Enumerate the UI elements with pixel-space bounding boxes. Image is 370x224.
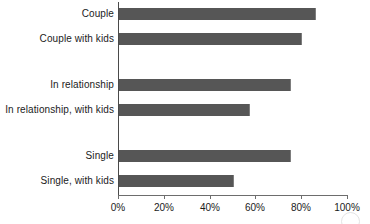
x-tick-label: 0%: [111, 201, 125, 214]
bar: [119, 175, 234, 187]
bar: [119, 79, 291, 91]
x-tick-label: 80%: [291, 201, 311, 214]
x-tick-label: 40%: [200, 201, 220, 214]
bar-row: Single, with kids: [0, 175, 370, 187]
bar-chart: CoupleCouple with kidsIn relationshipIn …: [0, 0, 370, 224]
category-label: Single: [86, 148, 114, 163]
bar-row: Couple: [0, 8, 370, 20]
category-label: In relationship, with kids: [5, 102, 114, 117]
scan-artifact-circle: [341, 212, 360, 224]
category-label: Couple with kids: [40, 31, 114, 46]
bar-row: In relationship: [0, 79, 370, 91]
bar: [119, 150, 291, 162]
category-label: Single, with kids: [41, 173, 114, 188]
x-tick-mark: [164, 195, 165, 199]
plot-area: CoupleCouple with kidsIn relationshipIn …: [0, 0, 370, 224]
bar: [119, 33, 302, 45]
bar: [119, 8, 316, 20]
x-tick-mark: [118, 195, 119, 199]
bar-row: Single: [0, 150, 370, 162]
bar-row: In relationship, with kids: [0, 104, 370, 116]
x-tick-mark: [210, 195, 211, 199]
category-label: In relationship: [50, 77, 114, 92]
x-tick-mark: [301, 195, 302, 199]
x-tick-label: 20%: [154, 201, 174, 214]
x-tick-label: 60%: [245, 201, 265, 214]
category-label: Couple: [82, 6, 114, 21]
bar: [119, 104, 250, 116]
x-tick-mark: [255, 195, 256, 199]
bar-rows: CoupleCouple with kidsIn relationshipIn …: [0, 0, 370, 195]
bar-row: Couple with kids: [0, 33, 370, 45]
x-axis-ticks: 0%20%40%60%80%100%: [0, 195, 370, 224]
x-tick-mark: [347, 195, 348, 199]
